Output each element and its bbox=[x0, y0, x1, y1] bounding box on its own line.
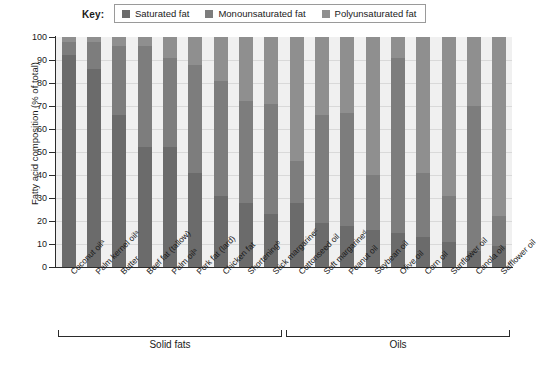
y-axis-tick-mark bbox=[49, 175, 55, 176]
y-axis-tick-mark bbox=[49, 152, 55, 153]
y-axis-tick-label: 80 bbox=[3, 79, 47, 88]
bar-segment bbox=[264, 37, 278, 104]
bar-slot bbox=[81, 37, 106, 267]
stacked-bar[interactable] bbox=[391, 37, 405, 267]
bar-segment bbox=[492, 37, 506, 216]
stacked-bar[interactable] bbox=[467, 37, 481, 267]
bar-segment bbox=[416, 173, 430, 237]
bar-slot bbox=[157, 37, 182, 267]
bar-slot bbox=[56, 37, 81, 267]
bar-slot bbox=[259, 37, 284, 267]
y-axis-tick-label: 70 bbox=[3, 102, 47, 111]
y-axis-tick-mark bbox=[49, 106, 55, 107]
y-axis-tick-mark bbox=[49, 37, 55, 38]
category-group-brackets: Solid fatsOils bbox=[0, 330, 526, 367]
bar-segment bbox=[188, 65, 202, 173]
stacked-bar[interactable] bbox=[366, 37, 380, 267]
legend-title: Key: bbox=[82, 9, 104, 20]
bar-segment bbox=[467, 37, 481, 106]
bar-segment bbox=[87, 42, 101, 70]
bar-segment bbox=[442, 37, 456, 196]
bar-segment bbox=[163, 58, 177, 148]
bar-segment bbox=[264, 104, 278, 214]
y-axis-tick-label: 20 bbox=[3, 217, 47, 226]
legend-swatch-polyunsaturated-icon bbox=[322, 10, 330, 18]
legend-item-polyunsaturated: Polyunsaturated fat bbox=[322, 8, 417, 19]
bar-segment bbox=[416, 37, 430, 173]
stacked-bar[interactable] bbox=[138, 37, 152, 267]
bar-segment bbox=[391, 37, 405, 58]
bar-segment bbox=[62, 55, 76, 267]
stacked-bar[interactable] bbox=[112, 37, 126, 267]
y-axis-tick-label: 30 bbox=[3, 194, 47, 203]
legend-label-polyunsaturated: Polyunsaturated fat bbox=[335, 8, 417, 19]
bar-slot bbox=[385, 37, 410, 267]
bar-segment bbox=[138, 46, 152, 147]
bar-segment bbox=[366, 37, 380, 175]
y-axis-tick-label: 50 bbox=[3, 148, 47, 157]
bar-segment bbox=[442, 196, 456, 242]
bar-segment bbox=[138, 147, 152, 267]
bar-segment bbox=[163, 37, 177, 58]
group-bracket bbox=[286, 330, 510, 337]
stacked-bar[interactable] bbox=[492, 37, 506, 267]
stacked-bar[interactable] bbox=[340, 37, 354, 267]
stacked-bar[interactable] bbox=[62, 37, 76, 267]
bar-segment bbox=[467, 106, 481, 251]
bar-slot bbox=[411, 37, 436, 267]
stacked-bar[interactable] bbox=[416, 37, 430, 267]
y-axis-tick-label: 100 bbox=[3, 33, 47, 42]
legend-item-saturated: Saturated fat bbox=[122, 8, 189, 19]
bar-slot bbox=[461, 37, 486, 267]
bar-segment bbox=[239, 37, 253, 101]
y-axis-tick-label: 0 bbox=[3, 263, 47, 272]
group-bracket bbox=[58, 330, 282, 337]
legend-label-monounsaturated: Monounsaturated fat bbox=[218, 8, 305, 19]
y-axis-tick-label: 40 bbox=[3, 171, 47, 180]
bar-segment bbox=[315, 37, 329, 115]
bar-segment bbox=[391, 58, 405, 233]
bar-segment bbox=[290, 37, 304, 161]
legend-swatch-monounsaturated-icon bbox=[205, 10, 213, 18]
y-axis-tick-mark bbox=[49, 267, 55, 268]
bar-segment bbox=[340, 37, 354, 113]
stacked-bar[interactable] bbox=[290, 37, 304, 267]
stacked-bar[interactable] bbox=[163, 37, 177, 267]
group-label: Solid fats bbox=[58, 339, 282, 350]
bar-segment bbox=[112, 46, 126, 115]
stacked-bar[interactable] bbox=[239, 37, 253, 267]
y-axis-tick-mark bbox=[49, 129, 55, 130]
bar-segment bbox=[340, 113, 354, 226]
stacked-bar[interactable] bbox=[87, 37, 101, 267]
bar-segment bbox=[290, 161, 304, 202]
bar-segment bbox=[214, 81, 228, 196]
stacked-bar[interactable] bbox=[442, 37, 456, 267]
bar-segment bbox=[315, 115, 329, 223]
bar-segment bbox=[112, 37, 126, 46]
bar-segment bbox=[214, 37, 228, 81]
stacked-bar[interactable] bbox=[264, 37, 278, 267]
bar-segment bbox=[492, 216, 506, 246]
bar-segment bbox=[62, 42, 76, 56]
stacked-bar[interactable] bbox=[214, 37, 228, 267]
y-axis-tick-label: 60 bbox=[3, 125, 47, 134]
y-axis-tick-mark bbox=[49, 60, 55, 61]
bar-segment bbox=[366, 175, 380, 230]
legend-box: Saturated fat Monounsaturated fat Polyun… bbox=[114, 4, 426, 23]
y-axis-tick-mark bbox=[49, 244, 55, 245]
y-axis-tick-labels: 0102030405060708090100 bbox=[0, 0, 47, 367]
y-axis-tick-mark bbox=[49, 198, 55, 199]
bar-series-container bbox=[56, 37, 512, 267]
x-axis-tick-labels: Coconut oilᵃPalm kernel oilᵃButterBeef f… bbox=[56, 268, 512, 328]
bar-slot bbox=[487, 37, 512, 267]
legend-item-monounsaturated: Monounsaturated fat bbox=[205, 8, 305, 19]
bar-segment bbox=[188, 37, 202, 65]
bar-segment bbox=[239, 101, 253, 202]
legend-swatch-saturated-icon bbox=[122, 10, 130, 18]
bar-slot bbox=[233, 37, 258, 267]
y-axis-tick-label: 10 bbox=[3, 240, 47, 249]
y-axis-tick-mark bbox=[49, 83, 55, 84]
bar-segment bbox=[138, 37, 152, 46]
y-axis-tick-mark bbox=[49, 221, 55, 222]
